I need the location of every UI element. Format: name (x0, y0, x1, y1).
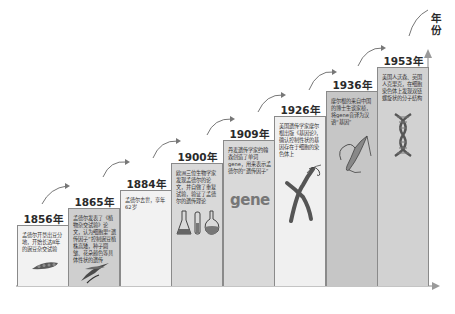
progression-arrows (0, 0, 455, 314)
gene-history-timeline: 年份 孟德尔开垦出豆分地，开始长达8年的豌豆杂交试验 1856年 孟德尔发表了《… (0, 0, 455, 314)
